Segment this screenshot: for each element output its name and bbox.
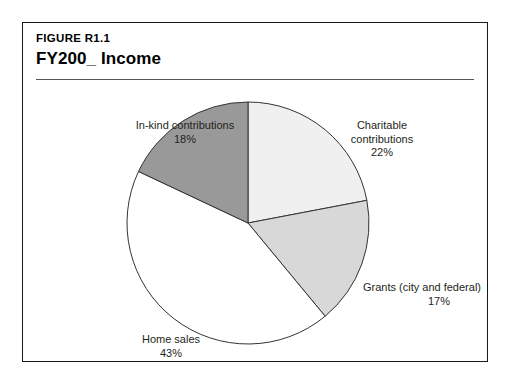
- figure-frame: FIGURE R1.1 FY200_ Income Charitable con…: [22, 22, 488, 362]
- pie-label-home-sales-line1: Home sales: [115, 333, 227, 347]
- pie-label-grants: Grants (city and federal) 17%: [363, 281, 515, 308]
- pie-value-grants: 17%: [363, 295, 515, 309]
- pie-label-home-sales: Home sales 43%: [115, 333, 227, 360]
- pie-label-in-kind-contributions: In-kind contributions 18%: [115, 119, 255, 146]
- pie-label-charitable-line1: Charitable: [323, 119, 441, 133]
- pie-label-grants-line1: Grants (city and federal): [363, 281, 515, 295]
- pie-label-in-kind-line1: In-kind contributions: [115, 119, 255, 133]
- pie-value-home-sales: 43%: [115, 347, 227, 361]
- pie-label-charitable-line2: contributions: [323, 133, 441, 147]
- pie-chart-svg: [23, 23, 489, 363]
- pie-label-charitable-contributions: Charitable contributions 22%: [323, 119, 441, 160]
- pie-value-in-kind: 18%: [115, 133, 255, 147]
- pie-value-charitable: 22%: [323, 146, 441, 160]
- pie-chart: Charitable contributions 22% Grants (cit…: [23, 23, 487, 361]
